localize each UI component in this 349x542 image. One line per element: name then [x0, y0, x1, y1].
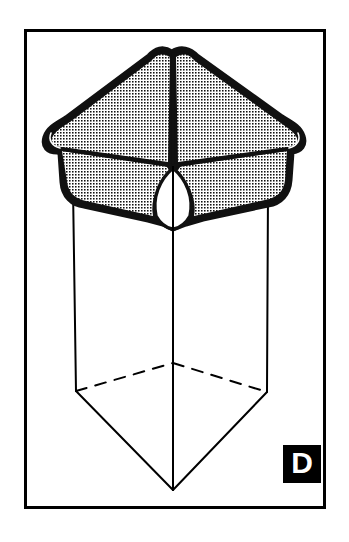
answer-label-d[interactable]: D — [283, 445, 321, 483]
figure-canvas: D — [0, 0, 349, 542]
figure-page: D — [0, 0, 349, 542]
prism-edge-right-vertical — [267, 190, 268, 392]
answer-label-letter: D — [291, 446, 313, 479]
